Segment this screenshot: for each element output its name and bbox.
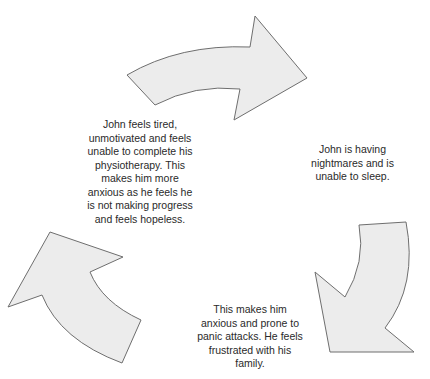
cycle-step-anxious-text: This makes him anxious and prone to pani… <box>180 303 320 371</box>
cycle-step-nightmares-text: John is having nightmares and is unable … <box>290 143 415 184</box>
curved-arrow-right-icon <box>315 222 414 352</box>
cycle-step-tired-text: John feels tired, unmotivated and feels … <box>55 118 225 226</box>
curved-arrow-top-icon <box>127 16 307 120</box>
clipped-footer-text <box>2 367 332 375</box>
curved-arrow-left-icon <box>8 232 141 363</box>
